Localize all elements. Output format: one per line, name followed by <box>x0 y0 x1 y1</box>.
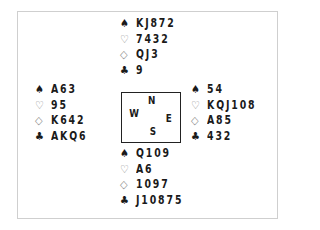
north-clubs: ♣9 <box>120 63 187 79</box>
south-spades: ♠Q109 <box>120 146 197 162</box>
compass-north: N <box>148 94 155 107</box>
heart-icon: ♡ <box>120 162 136 178</box>
north-hearts: ♡7432 <box>120 32 187 48</box>
east-clubs: ♣432 <box>191 129 270 145</box>
hand-east: ♠54 ♡KQJ108 ◇A85 ♣432 <box>191 82 270 144</box>
east-spades: ♠54 <box>191 82 270 98</box>
east-hearts: ♡KQJ108 <box>191 98 270 114</box>
diamond-icon: ◇ <box>35 113 51 129</box>
heart-icon: ♡ <box>191 98 207 114</box>
club-icon: ♣ <box>120 193 136 209</box>
south-clubs: ♣J10875 <box>120 193 197 209</box>
west-spades: ♠A63 <box>35 82 98 98</box>
east-diamonds: ◇A85 <box>191 113 270 129</box>
compass-box: N W E S <box>121 92 181 143</box>
club-icon: ♣ <box>120 63 136 79</box>
diamond-icon: ◇ <box>120 177 136 193</box>
west-hearts: ♡95 <box>35 98 98 114</box>
hand-north: ♠KJ872 ♡7432 ◇QJ3 ♣9 <box>120 16 187 78</box>
hand-west: ♠A63 ♡95 ◇K642 ♣AKQ6 <box>35 82 98 144</box>
spade-icon: ♠ <box>191 82 207 98</box>
west-diamonds: ◇K642 <box>35 113 98 129</box>
compass-south: S <box>150 125 156 138</box>
diamond-icon: ◇ <box>120 47 136 63</box>
north-spades: ♠KJ872 <box>120 16 187 32</box>
north-diamonds: ◇QJ3 <box>120 47 187 63</box>
compass-east: E <box>166 112 172 125</box>
spade-icon: ♠ <box>120 146 136 162</box>
south-diamonds: ◇1097 <box>120 177 197 193</box>
south-hearts: ♡A6 <box>120 162 197 178</box>
heart-icon: ♡ <box>35 98 51 114</box>
spade-icon: ♠ <box>35 82 51 98</box>
compass-west: W <box>129 107 139 120</box>
club-icon: ♣ <box>35 129 51 145</box>
club-icon: ♣ <box>191 129 207 145</box>
hand-south: ♠Q109 ♡A6 ◇1097 ♣J10875 <box>120 146 197 208</box>
heart-icon: ♡ <box>120 32 136 48</box>
spade-icon: ♠ <box>120 16 136 32</box>
west-clubs: ♣AKQ6 <box>35 129 98 145</box>
diamond-icon: ◇ <box>191 113 207 129</box>
